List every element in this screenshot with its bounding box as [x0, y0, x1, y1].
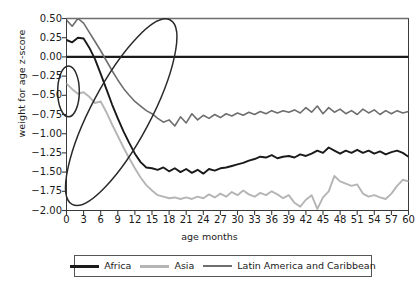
series-line — [67, 38, 409, 174]
y-tick-label: 0.25 — [22, 33, 62, 43]
y-tick-label: −1.00 — [22, 129, 62, 139]
x-axis-label: age months — [0, 231, 419, 242]
y-tick-label: −0.50 — [22, 90, 62, 100]
chart-root: weight for age z-score 0.500.250.00−0.25… — [0, 0, 419, 288]
legend-item[interactable]: Asia — [140, 261, 194, 271]
y-tick-label: −0.25 — [22, 71, 62, 81]
y-axis-tick-labels: 0.500.250.00−0.25−0.50−0.75−1.00−1.25−1.… — [18, 0, 62, 288]
y-tick-label: −1.25 — [22, 148, 62, 158]
legend-item[interactable]: Latin America and Caribbean — [203, 261, 375, 271]
series-line — [67, 19, 409, 127]
annotation-ellipses — [46, 6, 196, 218]
y-tick-label: 0.00 — [22, 52, 62, 62]
legend-label: Latin America and Caribbean — [237, 261, 375, 271]
data-series-group — [67, 19, 409, 209]
legend-swatch-icon — [70, 265, 99, 268]
legend-item[interactable]: Africa — [70, 261, 131, 271]
chart-legend: AfricaAsiaLatin America and Caribbean — [74, 255, 372, 277]
legend-swatch-icon — [140, 265, 169, 268]
y-tick-label: −1.75 — [22, 186, 62, 196]
y-tick-label: 0.50 — [22, 14, 62, 24]
large-ellipse — [46, 6, 196, 218]
chart-canvas — [0, 0, 419, 288]
y-tick-label: −0.75 — [22, 110, 62, 120]
legend-label: Africa — [104, 261, 131, 271]
y-tick-label: −1.50 — [22, 167, 62, 177]
series-line — [67, 84, 409, 209]
x-axis-tick-labels: 03691215182124273033363942454851545760 — [0, 214, 419, 230]
reference-lines — [67, 19, 409, 57]
legend-label: Asia — [174, 261, 194, 271]
x-tick-label: 60 — [396, 214, 419, 226]
legend-swatch-icon — [203, 265, 232, 267]
